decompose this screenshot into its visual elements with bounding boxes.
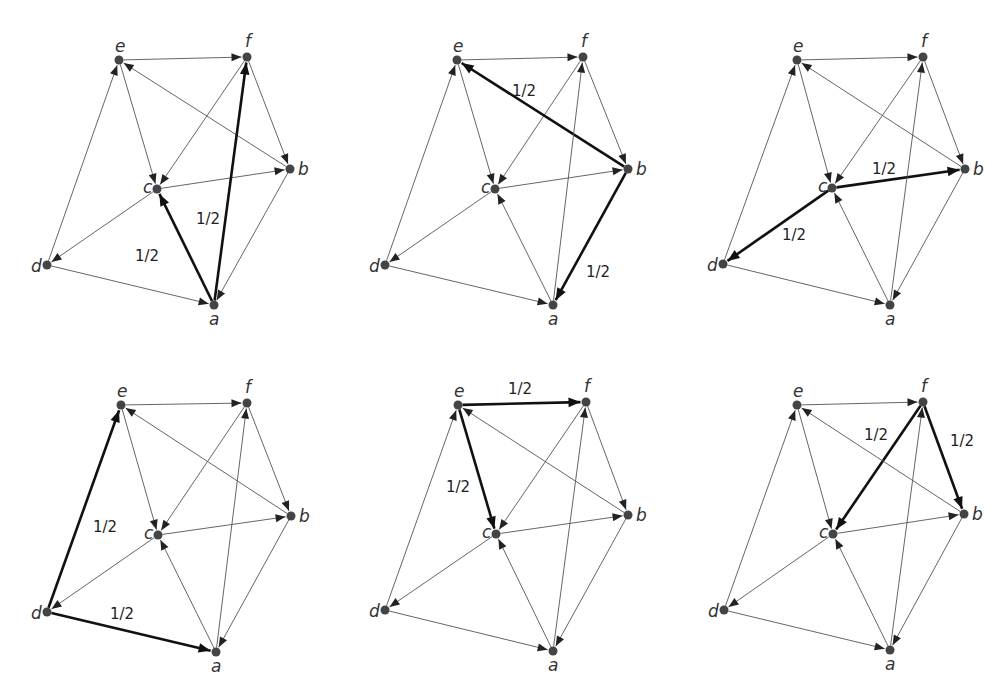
node-label-b: b — [636, 505, 647, 525]
node-label-b: b — [973, 159, 984, 179]
node-label-c: c — [143, 177, 153, 197]
edge-weight-label: 1/2 — [196, 210, 220, 228]
panel-c: efbcda1/21/2 — [707, 31, 984, 329]
edge-c-to-b — [501, 516, 623, 534]
edge-d-to-a — [51, 266, 208, 304]
node-f — [919, 53, 928, 62]
node-c — [154, 531, 163, 540]
edge-f-to-b-highlighted — [925, 406, 963, 509]
edge-d-to-e-highlighted — [49, 410, 120, 608]
edge-d-to-e — [49, 65, 118, 261]
edge-f-to-c — [498, 61, 580, 185]
edge-c-to-d — [729, 537, 830, 607]
node-label-b: b — [298, 159, 309, 179]
node-e — [793, 56, 802, 65]
node-d — [43, 261, 52, 270]
edge-weight-label: 1/2 — [782, 226, 806, 244]
node-label-c: c — [819, 522, 829, 542]
edge-f-to-b — [249, 407, 289, 511]
edge-b-to-a — [217, 173, 288, 300]
edge-a-to-c — [498, 194, 552, 301]
node-b — [960, 510, 969, 519]
edge-c-to-b — [161, 170, 284, 189]
edge-d-to-e — [387, 65, 456, 261]
node-label-b: b — [636, 159, 647, 179]
node-label-c: c — [144, 523, 154, 543]
node-label-a: a — [548, 655, 558, 675]
edge-a-to-f — [554, 63, 583, 301]
node-label-f: f — [921, 31, 930, 51]
node-label-c: c — [482, 522, 492, 542]
node-label-a: a — [209, 309, 219, 329]
edge-c-to-b — [163, 517, 286, 535]
node-d — [719, 260, 728, 269]
edge-b-to-a — [893, 173, 963, 300]
node-d — [381, 606, 390, 615]
edge-d-to-e — [387, 410, 457, 606]
edge-weight-label: 1/2 — [864, 426, 888, 444]
node-label-f: f — [245, 377, 254, 397]
panel-f: efbcda1/21/2 — [708, 376, 983, 674]
node-label-f: f — [921, 376, 930, 396]
edge-b-to-a — [893, 518, 962, 645]
node-b — [624, 511, 633, 520]
node-label-f: f — [584, 376, 593, 396]
node-label-a: a — [885, 309, 895, 329]
edge-b-to-e — [124, 63, 287, 167]
node-label-f: f — [581, 31, 590, 51]
edge-f-to-b — [249, 61, 288, 164]
edge-e-to-c — [798, 409, 831, 528]
node-b — [287, 512, 296, 521]
node-label-e: e — [793, 381, 803, 401]
edge-e-to-f-highlighted — [463, 402, 581, 405]
node-label-e: e — [117, 381, 127, 401]
node-b — [286, 165, 295, 174]
edge-d-to-a — [728, 611, 884, 649]
edge-f-to-c — [161, 407, 244, 531]
node-label-b: b — [299, 506, 310, 526]
node-label-b: b — [972, 504, 983, 524]
node-d — [381, 261, 390, 270]
edge-f-to-c-highlighted — [836, 406, 920, 530]
edge-a-to-c — [835, 539, 888, 646]
node-label-c: c — [818, 176, 828, 196]
edge-c-to-b — [499, 170, 622, 189]
edge-e-to-f — [802, 402, 918, 405]
edge-c-to-d — [52, 538, 155, 609]
node-e — [454, 401, 463, 410]
edge-a-to-c — [160, 540, 214, 648]
node-e — [117, 401, 126, 410]
node-c — [153, 185, 162, 194]
edge-e-to-c — [798, 64, 830, 182]
edge-f-to-b — [925, 61, 964, 164]
edge-d-to-e — [726, 410, 796, 606]
edge-a-to-f — [217, 409, 247, 648]
node-label-d: d — [31, 603, 42, 623]
node-f — [579, 53, 588, 62]
edge-weight-label: 1/2 — [446, 478, 470, 496]
edge-d-to-a — [727, 265, 884, 304]
edge-weight-label: 1/2 — [950, 432, 974, 450]
node-label-d: d — [369, 601, 380, 621]
edge-a-to-c — [498, 539, 551, 647]
edge-e-to-f — [126, 403, 242, 405]
edge-b-to-e-highlighted — [462, 63, 625, 167]
edge-e-to-f — [462, 57, 578, 60]
node-label-a: a — [548, 309, 558, 329]
edge-b-to-e — [463, 408, 625, 513]
edge-c-to-b — [837, 515, 958, 534]
node-f — [243, 399, 252, 408]
edge-b-to-e — [802, 408, 961, 512]
panel-e: efbcda1/21/2 — [369, 376, 647, 675]
node-e — [453, 56, 462, 65]
node-c — [492, 530, 501, 539]
edge-weight-label: 1/2 — [872, 160, 896, 178]
edge-f-to-c — [499, 406, 583, 530]
edge-e-to-c — [122, 409, 156, 529]
node-c — [829, 530, 838, 539]
node-label-d: d — [369, 256, 380, 276]
edge-f-to-b — [588, 406, 627, 510]
edge-weight-label: 1/2 — [512, 82, 536, 100]
edge-e-to-c — [458, 64, 493, 183]
node-label-e: e — [115, 36, 125, 56]
